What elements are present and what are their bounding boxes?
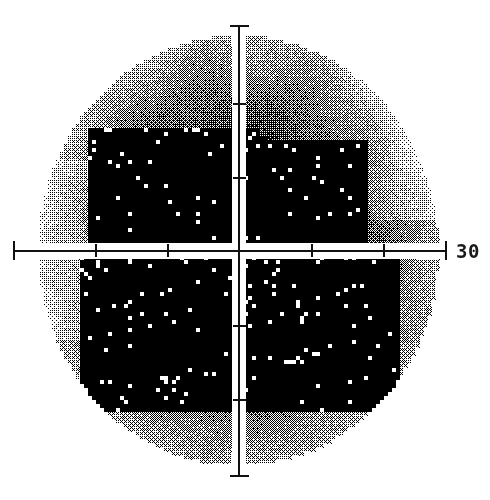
tick-vertical-1 — [233, 103, 246, 105]
axis-label-30: 30 — [456, 240, 480, 262]
tick-vertical-2 — [233, 177, 246, 179]
tick-horizontal-5 — [445, 241, 447, 260]
tick-vertical-3 — [233, 325, 246, 327]
tick-vertical-5 — [230, 475, 249, 477]
tick-horizontal-3 — [311, 244, 313, 257]
visual-field-plot: 30 — [0, 0, 490, 500]
tick-horizontal-4 — [383, 244, 385, 257]
tick-horizontal-0 — [13, 241, 15, 260]
vertical-axis — [238, 25, 240, 476]
tick-horizontal-2 — [167, 244, 169, 257]
horizontal-axis — [13, 250, 446, 252]
tick-vertical-4 — [233, 399, 246, 401]
tick-horizontal-1 — [95, 244, 97, 257]
tick-vertical-0 — [230, 25, 249, 27]
